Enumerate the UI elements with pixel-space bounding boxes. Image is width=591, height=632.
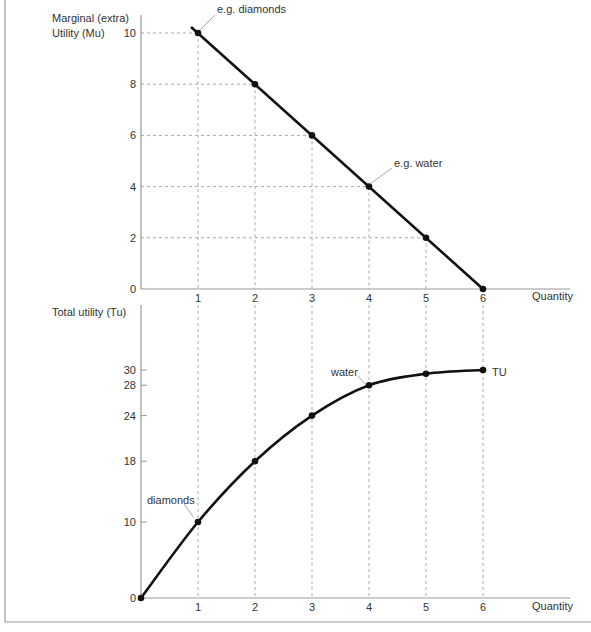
data-point bbox=[480, 367, 487, 374]
x-tick-label: 4 bbox=[366, 601, 372, 613]
data-point bbox=[252, 458, 259, 465]
data-point bbox=[366, 183, 373, 190]
annotation-eg-diamonds: e.g. diamonds bbox=[217, 3, 287, 15]
data-point bbox=[423, 371, 430, 378]
y-tick-label: 8 bbox=[130, 78, 136, 90]
bottom-y-axis-label: Total utility (Tu) bbox=[52, 306, 126, 318]
data-point bbox=[423, 235, 430, 242]
x-tick-label: 2 bbox=[252, 292, 258, 304]
y-tick-label: 28 bbox=[124, 379, 136, 391]
y-tick-label: 10 bbox=[124, 516, 136, 528]
y-tick-label: 24 bbox=[124, 410, 136, 422]
data-point bbox=[195, 519, 202, 526]
bottom-x-axis-label: Quantity bbox=[532, 600, 573, 612]
y-tick-label: 0 bbox=[130, 592, 136, 604]
x-tick-label: 6 bbox=[480, 601, 486, 613]
x-tick-label: 2 bbox=[252, 601, 258, 613]
total-utility-chart: Total utility (Tu) 01018242830 123456 Qu… bbox=[52, 305, 573, 613]
data-point bbox=[366, 382, 373, 389]
bottom-guide-lines bbox=[198, 305, 483, 598]
data-point bbox=[252, 81, 259, 88]
y-tick-label: 2 bbox=[130, 232, 136, 244]
data-point bbox=[195, 30, 202, 37]
top-y-axis-label-line2: Utility (Mu) bbox=[52, 27, 105, 39]
top-axes bbox=[141, 15, 570, 289]
water-pointer-top bbox=[370, 168, 392, 184]
bottom-axes bbox=[141, 305, 570, 598]
x-tick-label: 6 bbox=[480, 292, 486, 304]
bottom-y-tick-labels: 01018242830 bbox=[124, 364, 147, 604]
y-tick-label: 30 bbox=[124, 364, 136, 376]
data-point bbox=[138, 595, 145, 602]
diamonds-pointer-top bbox=[200, 15, 215, 30]
bottom-x-tick-labels: 123456 bbox=[195, 601, 486, 613]
x-tick-label: 4 bbox=[366, 292, 372, 304]
diamonds-pointer-bottom bbox=[184, 504, 194, 518]
chart-canvas: Marginal (extra) Utility (Mu) 0246810 12… bbox=[0, 0, 591, 632]
data-point bbox=[480, 286, 487, 293]
data-point bbox=[309, 412, 316, 419]
x-tick-label: 5 bbox=[423, 292, 429, 304]
x-tick-label: 1 bbox=[195, 601, 201, 613]
top-x-tick-labels: 123456 bbox=[195, 292, 486, 304]
top-x-axis-label: Quantity bbox=[532, 290, 573, 302]
top-y-tick-labels: 0246810 bbox=[124, 27, 136, 295]
y-tick-label: 10 bbox=[124, 27, 136, 39]
annotation-eg-water: e.g. water bbox=[394, 157, 443, 169]
y-tick-label: 4 bbox=[130, 181, 136, 193]
utility-figure: Marginal (extra) Utility (Mu) 0246810 12… bbox=[0, 0, 591, 632]
data-point bbox=[309, 132, 316, 139]
marginal-utility-chart: Marginal (extra) Utility (Mu) 0246810 12… bbox=[52, 3, 573, 304]
y-tick-label: 0 bbox=[130, 283, 136, 295]
x-tick-label: 5 bbox=[423, 601, 429, 613]
tu-series-label: TU bbox=[492, 366, 507, 378]
water-pointer-bottom bbox=[358, 376, 366, 385]
annotation-water: water bbox=[330, 366, 358, 378]
x-tick-label: 1 bbox=[195, 292, 201, 304]
top-y-axis-label-line1: Marginal (extra) bbox=[52, 12, 129, 24]
x-tick-label: 3 bbox=[309, 601, 315, 613]
y-tick-label: 18 bbox=[124, 455, 136, 467]
y-tick-label: 6 bbox=[130, 129, 136, 141]
annotation-diamonds: diamonds bbox=[147, 494, 195, 506]
x-tick-label: 3 bbox=[309, 292, 315, 304]
